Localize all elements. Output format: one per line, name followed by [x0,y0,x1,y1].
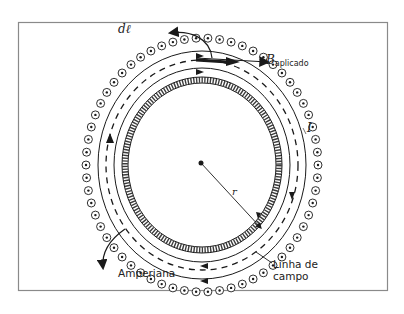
wire-dot-icon [85,164,87,166]
amperian-label: Amperiana [118,267,175,279]
wire-dot-icon [150,50,152,52]
wire-dot-icon [218,38,220,40]
field-line-label: Linha de campo [273,258,318,282]
dl-label: dℓ [118,22,131,37]
wire-dot-icon [161,283,163,285]
wire-dot-icon [314,138,316,140]
radius-label: r [232,186,237,197]
wire-dot-icon [90,202,92,204]
field-line-label-line1: Linha de [273,258,318,270]
wire-dot-icon [94,214,96,216]
wire-dot-icon [195,291,197,293]
wire-dot-icon [296,236,298,238]
toroid-ampere-diagram [0,0,404,314]
wire-dot-icon [139,56,141,58]
wire-dot-icon [172,41,174,43]
wire-dot-icon [302,225,304,227]
wire-dot-icon [296,91,298,93]
b-applied-label: Baplicado [266,53,309,68]
wire-dot-icon [195,37,197,39]
wire-dot-icon [99,102,101,104]
wire-dot-icon [262,56,264,58]
wire-dot-icon [130,63,132,65]
wire-dot-icon [85,151,87,153]
wire-dot-icon [90,126,92,128]
wire-dot-icon [113,247,115,249]
wire-dot-icon [241,45,243,47]
wire-dot-icon [302,102,304,104]
current-label: I [307,121,312,135]
wire-dot-icon [316,177,318,179]
wire-dot-icon [113,81,115,83]
wire-dot-icon [106,91,108,93]
wire-dot-icon [252,50,254,52]
wire-dot-icon [183,38,185,40]
wire-dot-icon [289,247,291,249]
wire-dot-icon [289,81,291,83]
wire-dot-icon [230,41,232,43]
wire-dot-icon [207,37,209,39]
dl-vector [196,60,228,62]
wire-dot-icon [87,138,89,140]
wire-dot-icon [161,45,163,47]
wire-dot-icon [252,278,254,280]
wire-dot-icon [85,177,87,179]
wire-dot-icon [183,289,185,291]
wire-dot-icon [94,114,96,116]
wire-dot-icon [312,202,314,204]
wire-dot-icon [307,114,309,116]
wire-dot-icon [172,287,174,289]
wire-dot-icon [121,72,123,74]
wire-dot-icon [241,283,243,285]
wire-dot-icon [314,189,316,191]
wire-dot-icon [207,291,209,293]
wire-dot-icon [307,214,309,216]
wire-dot-icon [106,236,108,238]
wire-dot-icon [230,287,232,289]
wire-dot-icon [317,164,319,166]
wire-dot-icon [316,151,318,153]
wire-dot-icon [99,225,101,227]
wire-dot-icon [262,272,264,274]
wire-dot-icon [281,72,283,74]
wire-dot-icon [121,256,123,258]
wire-dot-icon [87,189,89,191]
field-line-label-line2: campo [273,270,318,282]
wire-dot-icon [218,289,220,291]
